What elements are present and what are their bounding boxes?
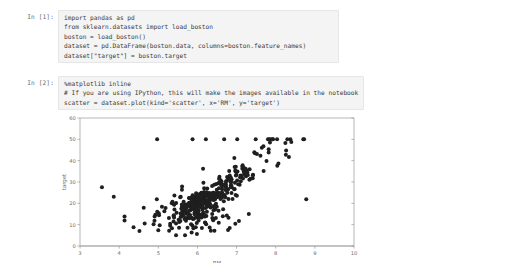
svg-text:RM: RM bbox=[213, 260, 222, 263]
svg-text:10: 10 bbox=[69, 222, 76, 228]
code-comment-line: # If you are using IPython, this will ma… bbox=[64, 88, 359, 97]
notebook-cell[interactable]: In [2]: %matplotlib inline # If you are … bbox=[18, 76, 364, 110]
cell-prompt-in-1: In [1]: bbox=[18, 10, 54, 21]
code-line: import pandas as pd bbox=[64, 13, 334, 22]
cell-prompt-in-2: In [2]: bbox=[18, 76, 54, 87]
cell-output-area: 3456789100102030405060RMtarget bbox=[58, 108, 358, 263]
svg-text:5: 5 bbox=[157, 250, 160, 256]
svg-text:6: 6 bbox=[196, 250, 199, 256]
code-line: %matplotlib inline bbox=[64, 79, 359, 88]
code-line: dataset["target"] = boston.target bbox=[64, 51, 334, 60]
svg-text:50: 50 bbox=[69, 136, 76, 142]
svg-text:target: target bbox=[61, 174, 68, 190]
notebook-cell[interactable]: In [1]: import pandas as pd from sklearn… bbox=[18, 10, 339, 63]
svg-text:40: 40 bbox=[69, 158, 76, 164]
svg-text:30: 30 bbox=[69, 179, 76, 185]
code-input-area[interactable]: %matplotlib inline # If you are using IP… bbox=[58, 76, 364, 110]
svg-text:10: 10 bbox=[351, 250, 358, 256]
matplotlib-figure: 3456789100102030405060RMtarget bbox=[58, 108, 358, 263]
scatter-plot: 3456789100102030405060RMtarget bbox=[58, 108, 358, 263]
code-line: scatter = dataset.plot(kind='scatter', x… bbox=[64, 98, 359, 107]
code-line: dataset = pd.DataFrame(boston.data, colu… bbox=[64, 41, 334, 50]
code-input-area[interactable]: import pandas as pd from sklearn.dataset… bbox=[58, 10, 339, 63]
svg-text:7: 7 bbox=[235, 250, 238, 256]
svg-text:3: 3 bbox=[78, 250, 81, 256]
code-line: boston = load_boston() bbox=[64, 32, 334, 41]
svg-text:4: 4 bbox=[117, 250, 121, 256]
svg-text:60: 60 bbox=[69, 115, 76, 121]
svg-text:0: 0 bbox=[72, 243, 75, 249]
svg-text:9: 9 bbox=[313, 250, 316, 256]
svg-text:20: 20 bbox=[69, 200, 76, 206]
jupyter-notebook: In [1]: import pandas as pd from sklearn… bbox=[0, 0, 509, 267]
svg-text:8: 8 bbox=[274, 250, 277, 256]
code-line: from sklearn.datasets import load_boston bbox=[64, 22, 334, 31]
